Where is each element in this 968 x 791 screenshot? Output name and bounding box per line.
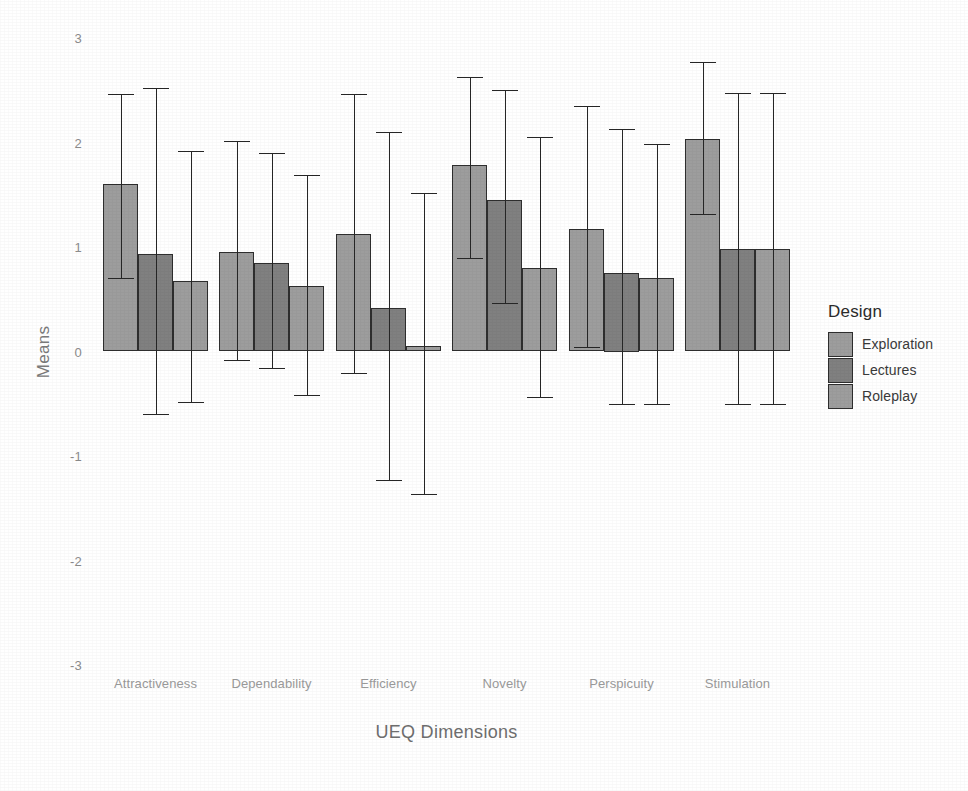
error-bar-cap-upper bbox=[224, 141, 250, 142]
error-bar-line bbox=[657, 144, 658, 404]
x-axis-tick-label: Perspicuity bbox=[589, 676, 654, 691]
error-bar-cap-lower bbox=[178, 402, 204, 403]
error-bar-cap-lower bbox=[492, 303, 518, 304]
y-axis-tick-label: -2 bbox=[42, 553, 82, 568]
error-bar-cap-lower bbox=[527, 397, 553, 398]
error-bar-cap-lower bbox=[376, 480, 402, 481]
legend-swatch-lectures bbox=[828, 358, 853, 383]
error-bar-cap-upper bbox=[178, 151, 204, 152]
legend-label: Roleplay bbox=[862, 388, 917, 404]
ueq-means-bar-chart: Means 3210-1-2-3 AttractivenessDependabi… bbox=[0, 0, 968, 791]
error-bar-cap-lower bbox=[224, 360, 250, 361]
error-bar-cap-upper bbox=[341, 94, 367, 95]
error-bar-line bbox=[307, 175, 308, 395]
scan-grain-overlay bbox=[0, 0, 968, 791]
x-axis-title: UEQ Dimensions bbox=[375, 722, 517, 743]
error-bar-line bbox=[389, 132, 390, 480]
error-bar-cap-upper bbox=[527, 137, 553, 138]
legend-item-exploration: Exploration bbox=[828, 331, 933, 357]
error-bar-line bbox=[121, 94, 122, 278]
error-bar-cap-upper bbox=[690, 62, 716, 63]
error-bar-cap-lower bbox=[574, 347, 600, 348]
error-bar-cap-lower bbox=[294, 395, 320, 396]
error-bar-cap-upper bbox=[457, 77, 483, 78]
error-bar-cap-upper bbox=[108, 94, 134, 95]
legend-label: Lectures bbox=[862, 362, 917, 378]
y-axis-tick-label: 3 bbox=[42, 31, 82, 46]
error-bar-line bbox=[237, 141, 238, 359]
y-axis-tick-label: 0 bbox=[42, 344, 82, 359]
error-bar-cap-upper bbox=[725, 93, 751, 94]
legend: Design ExplorationLecturesRoleplay bbox=[828, 302, 933, 409]
x-axis-tick-label: Dependability bbox=[231, 676, 311, 691]
error-bar-cap-lower bbox=[143, 414, 169, 415]
error-bar-cap-lower bbox=[259, 368, 285, 369]
error-bar-cap-upper bbox=[492, 90, 518, 91]
error-bar-line bbox=[540, 137, 541, 397]
error-bar-cap-upper bbox=[644, 144, 670, 145]
legend-label: Exploration bbox=[862, 336, 933, 352]
error-bar-line bbox=[156, 88, 157, 414]
error-bar-cap-upper bbox=[259, 153, 285, 154]
error-bar-cap-upper bbox=[376, 132, 402, 133]
error-bar-cap-upper bbox=[294, 175, 320, 176]
error-bar-cap-lower bbox=[411, 494, 437, 495]
legend-swatch-roleplay bbox=[828, 384, 853, 409]
error-bar-cap-upper bbox=[760, 93, 786, 94]
error-bar-cap-lower bbox=[725, 404, 751, 405]
error-bar-cap-lower bbox=[609, 404, 635, 405]
x-axis-tick-label: Attractiveness bbox=[114, 676, 197, 691]
legend-item-lectures: Lectures bbox=[828, 357, 933, 383]
error-bar-line bbox=[773, 93, 774, 403]
y-axis-tick-label: -1 bbox=[42, 449, 82, 464]
error-bar-cap-lower bbox=[341, 373, 367, 374]
error-bar-cap-upper bbox=[411, 193, 437, 194]
error-bar-line bbox=[738, 93, 739, 403]
legend-swatch-exploration bbox=[828, 332, 853, 357]
legend-title: Design bbox=[828, 302, 933, 322]
error-bar-line bbox=[622, 129, 623, 404]
error-bar-line bbox=[191, 151, 192, 402]
legend-item-roleplay: Roleplay bbox=[828, 383, 933, 409]
error-bar-cap-lower bbox=[457, 258, 483, 259]
error-bar-cap-lower bbox=[108, 278, 134, 279]
error-bar-line bbox=[272, 153, 273, 368]
error-bar-cap-upper bbox=[609, 129, 635, 130]
y-axis-tick-label: 1 bbox=[42, 240, 82, 255]
error-bar-cap-lower bbox=[760, 404, 786, 405]
error-bar-line bbox=[470, 77, 471, 259]
x-axis-tick-label: Stimulation bbox=[705, 676, 770, 691]
error-bar-line bbox=[354, 94, 355, 373]
error-bar-line bbox=[703, 62, 704, 214]
y-axis-tick-label: 2 bbox=[42, 135, 82, 150]
error-bar-line bbox=[505, 90, 506, 303]
error-bar-cap-lower bbox=[644, 404, 670, 405]
error-bar-cap-upper bbox=[143, 88, 169, 89]
error-bar-cap-lower bbox=[690, 214, 716, 215]
error-bar-cap-upper bbox=[574, 106, 600, 107]
x-axis-tick-label: Efficiency bbox=[360, 676, 416, 691]
error-bar-line bbox=[424, 193, 425, 494]
error-bar-line bbox=[587, 106, 588, 347]
y-axis-tick-label: -3 bbox=[42, 658, 82, 673]
x-axis-tick-label: Novelty bbox=[482, 676, 526, 691]
